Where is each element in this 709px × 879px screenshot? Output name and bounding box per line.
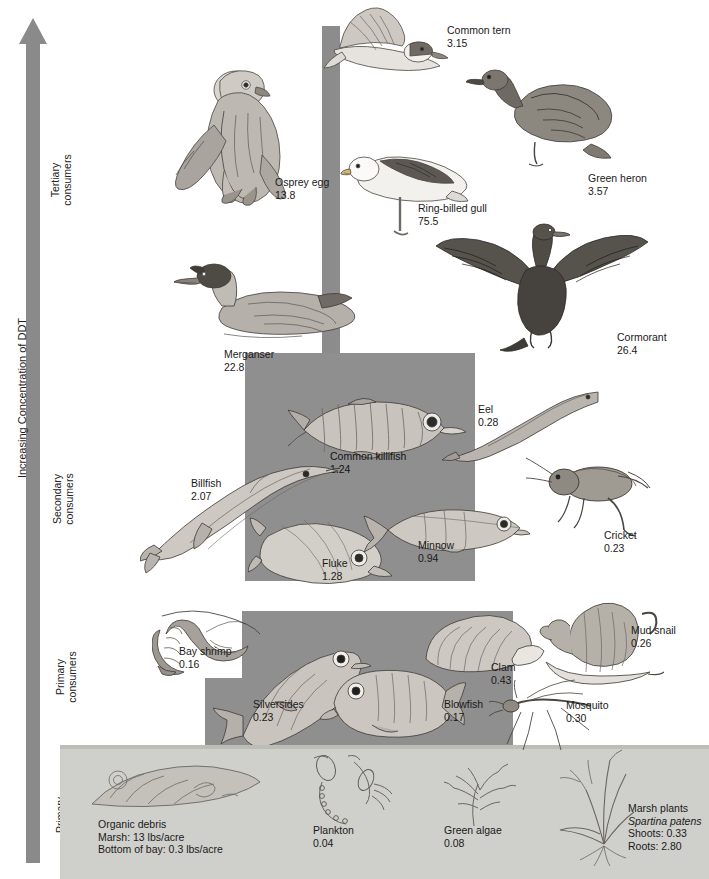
organic-debris-illustration — [82, 758, 272, 818]
label-mud-snail: Mud snail 0.26 — [631, 624, 676, 649]
label-common-killifish: Common killifish 1.24 — [330, 450, 406, 475]
label-cormorant: Cormorant 26.4 — [617, 331, 667, 356]
label-green-heron: Green heron 3.57 — [588, 172, 647, 197]
tier-label-tertiary: Tertiary consumers — [49, 135, 73, 225]
plankton-illustration — [292, 752, 412, 830]
label-osprey-egg: Osprey egg 13.8 — [275, 176, 329, 201]
label-organic-debris: Organic debris Marsh: 13 lbs/acre Bottom… — [98, 818, 223, 856]
common-tern-illustration — [322, 6, 450, 78]
label-cricket: Cricket 0.23 — [604, 529, 637, 554]
label-plankton: Plankton 0.04 — [313, 824, 354, 849]
label-billfish: Billfish 2.07 — [191, 477, 221, 502]
label-green-algae: Green algae 0.08 — [444, 824, 502, 849]
tier-label-secondary: Secondary consumers — [51, 454, 75, 544]
merganser-illustration — [168, 262, 358, 352]
green-heron-illustration — [465, 58, 615, 173]
green-algae-illustration — [424, 760, 534, 828]
tier-label-primary: Primary consumers — [54, 632, 78, 722]
label-merganser: Merganser 22.8 — [224, 348, 274, 373]
label-minnow: Minnow 0.94 — [418, 539, 454, 564]
label-blowfish: Blowfish 0.17 — [444, 698, 483, 723]
label-eel: Eel 0.28 — [478, 403, 498, 428]
label-mosquito: Mosquito 0.30 — [566, 699, 609, 724]
label-marsh-plants: Marsh plants Spartina patens Shoots: 0.3… — [628, 802, 702, 852]
label-silversides: Silversides 0.23 — [253, 698, 304, 723]
axis-title: Increasing Concentration of DDT — [16, 268, 28, 528]
label-fluke: Fluke 1.28 — [322, 557, 348, 582]
label-common-tern: Common tern 3.15 — [447, 24, 511, 49]
